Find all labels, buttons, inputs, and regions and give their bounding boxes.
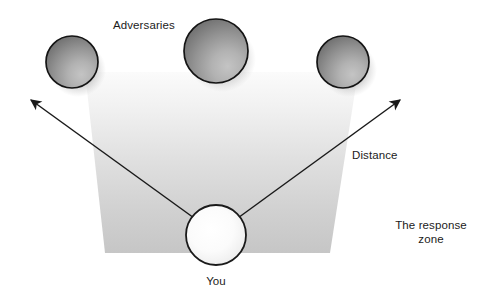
adversary-right-circle <box>317 36 369 88</box>
diagram-graphics <box>0 0 481 308</box>
adversary-center-circle <box>184 19 248 83</box>
you-circle <box>186 205 246 265</box>
diagram-canvas: Adversaries Distance The response zone Y… <box>0 0 481 308</box>
adversary-left-circle <box>46 36 98 88</box>
you-label: You <box>196 274 236 288</box>
response-zone-label: The response zone <box>383 218 479 246</box>
distance-label: Distance <box>352 148 398 162</box>
adversaries-label: Adversaries <box>113 18 175 32</box>
